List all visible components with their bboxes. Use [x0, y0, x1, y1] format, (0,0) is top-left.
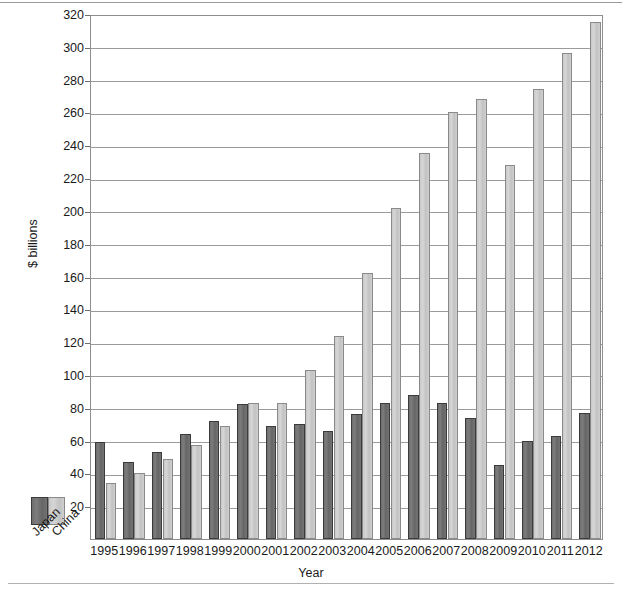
gridline: [91, 212, 602, 213]
gridline: [91, 245, 602, 246]
y-tick-label: 320: [44, 9, 84, 21]
top-divider: [0, 2, 622, 3]
gridline: [91, 409, 602, 410]
y-tick-label: 120: [44, 337, 84, 349]
bar-china-2006: [419, 153, 430, 539]
bar-japan-2005: [380, 403, 391, 539]
bar-china-2009: [505, 165, 516, 539]
y-tick-label: 260: [44, 107, 84, 119]
bar-china-2011: [562, 53, 573, 539]
y-tick-label: 100: [44, 370, 84, 382]
bar-china-2000: [248, 403, 259, 539]
y-tick-label: 140: [44, 304, 84, 316]
gridline: [91, 180, 602, 181]
y-tick-label: 60: [44, 436, 84, 448]
bar-japan-1998: [180, 434, 191, 539]
y-tick-label: 300: [44, 42, 84, 54]
y-tick-label: 240: [44, 140, 84, 152]
bar-japan-2009: [494, 465, 505, 539]
gridline: [91, 81, 602, 82]
plot-area: [90, 15, 603, 540]
bar-china-1997: [163, 459, 174, 539]
bar-japan-1997: [152, 452, 163, 539]
bar-china-2010: [533, 89, 544, 539]
bar-china-1999: [220, 426, 231, 539]
y-tick-label: 200: [44, 206, 84, 218]
bar-china-1995: [106, 483, 117, 539]
gridline: [91, 48, 602, 49]
gridline: [91, 147, 602, 148]
gridline: [91, 376, 602, 377]
bar-japan-2004: [351, 414, 362, 539]
bar-china-2001: [277, 403, 288, 539]
bar-china-2005: [391, 208, 402, 539]
bar-china-2008: [476, 99, 487, 539]
y-tick-label: 220: [44, 173, 84, 185]
bar-japan-2006: [408, 395, 419, 539]
gridline: [91, 311, 602, 312]
bar-china-2003: [334, 336, 345, 539]
bar-china-2007: [448, 112, 459, 539]
bar-japan-1999: [209, 421, 220, 539]
x-axis-title: Year: [0, 566, 622, 580]
bar-japan-2001: [266, 426, 277, 539]
y-axis-title: $ billions: [26, 219, 40, 268]
bar-japan-2003: [323, 431, 334, 539]
gridline: [91, 114, 602, 115]
gridline: [91, 278, 602, 279]
chart-figure: 2040608010012014016018020022024026028030…: [0, 0, 622, 605]
y-tick-label: 40: [44, 468, 84, 480]
x-tick-label-2012: 2012: [571, 545, 607, 558]
bar-japan-2007: [437, 403, 448, 539]
y-tick-label: 280: [44, 75, 84, 87]
bottom-divider: [8, 583, 614, 584]
bar-china-2004: [362, 273, 373, 539]
bar-china-2012: [590, 22, 601, 539]
bar-japan-2000: [237, 404, 248, 539]
bar-china-2002: [305, 370, 316, 539]
bar-china-1998: [191, 445, 202, 539]
bar-china-1996: [134, 473, 145, 539]
bar-japan-1996: [123, 462, 134, 539]
gridline: [91, 344, 602, 345]
bar-japan-2010: [522, 441, 533, 539]
y-tick-label: 80: [44, 403, 84, 415]
y-tick-label: 180: [44, 239, 84, 251]
y-tick-label: 160: [44, 272, 84, 284]
bar-japan-1995: [95, 442, 106, 539]
chart-legend: Japan China: [27, 497, 89, 569]
bar-japan-2008: [465, 418, 476, 539]
bar-japan-2012: [579, 413, 590, 539]
bar-japan-2011: [551, 436, 562, 539]
bar-japan-2002: [294, 424, 305, 539]
